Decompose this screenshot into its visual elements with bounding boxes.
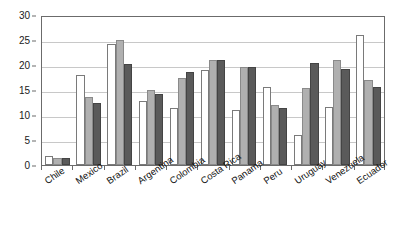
bar — [279, 108, 287, 165]
y-tick-mark — [32, 116, 36, 117]
bar-chart: 051015202530 ChileMexicoBrazilArgentinaC… — [0, 0, 395, 238]
bar — [186, 72, 194, 165]
y-tick-mark — [32, 16, 36, 17]
bar-group — [229, 17, 260, 165]
bar — [76, 75, 84, 165]
bar — [310, 63, 318, 165]
bar — [271, 105, 279, 165]
bar-group — [322, 17, 353, 165]
bar — [356, 35, 364, 165]
bar — [263, 87, 271, 166]
bar — [85, 97, 93, 166]
bar — [201, 70, 209, 165]
bar — [93, 103, 101, 165]
y-tick-label: 0 — [24, 161, 30, 171]
bar-group — [291, 17, 322, 165]
bar-group — [135, 17, 166, 165]
bar — [341, 69, 349, 165]
bar-group — [73, 17, 104, 165]
bar-groups — [42, 17, 384, 165]
y-axis: 051015202530 — [0, 16, 36, 166]
bar-group — [42, 17, 73, 165]
bar — [217, 60, 225, 165]
bar-group — [260, 17, 291, 165]
y-tick-mark — [32, 166, 36, 167]
bar-group — [104, 17, 135, 165]
bar — [240, 67, 248, 165]
y-tick-mark — [32, 141, 36, 142]
bar — [53, 158, 61, 166]
bar — [124, 64, 132, 166]
bar — [155, 94, 163, 166]
y-tick-label: 30 — [19, 11, 30, 21]
x-axis-labels: ChileMexicoBrazilArgentinaColombiaCosta … — [41, 170, 385, 232]
bar — [325, 107, 333, 166]
bar — [209, 60, 217, 165]
bar — [302, 88, 310, 165]
plot-area — [41, 16, 385, 166]
bar-group — [353, 17, 384, 165]
y-tick-mark — [32, 91, 36, 92]
bar — [139, 101, 147, 166]
y-tick-mark — [32, 41, 36, 42]
bar — [373, 87, 381, 166]
bar — [294, 135, 302, 165]
bar-group — [197, 17, 228, 165]
bar-group — [166, 17, 197, 165]
y-tick-mark — [32, 66, 36, 67]
bar — [116, 40, 124, 166]
bar — [147, 90, 155, 166]
y-tick-label: 15 — [19, 86, 30, 96]
bar — [107, 44, 115, 166]
y-tick-label: 25 — [19, 36, 30, 46]
bar — [333, 60, 341, 165]
bar — [248, 67, 256, 165]
y-tick-label: 20 — [19, 61, 30, 71]
y-tick-label: 10 — [19, 111, 30, 121]
bar — [62, 158, 70, 165]
bar — [178, 78, 186, 166]
bar — [364, 80, 372, 165]
bar — [45, 156, 53, 165]
x-tick-label: Peru — [262, 166, 284, 185]
y-tick-label: 5 — [24, 136, 30, 146]
